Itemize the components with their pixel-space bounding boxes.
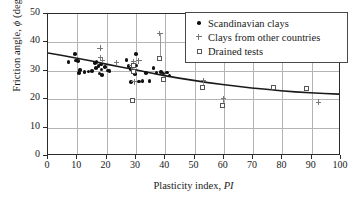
- data-point-plus: [131, 79, 136, 84]
- data-point-filled-circle: [108, 69, 112, 73]
- data-point-filled-circle: [144, 71, 148, 75]
- x-tick-label: 80: [266, 159, 296, 170]
- data-point-open-square: [200, 85, 205, 90]
- data-point-plus: [201, 78, 206, 83]
- y-tick-label: 40: [12, 34, 40, 45]
- data-point-filled-circle: [100, 73, 104, 77]
- data-point-filled-circle: [83, 70, 87, 74]
- data-point-filled-circle: [125, 58, 129, 62]
- data-point-plus: [316, 99, 321, 104]
- legend-marker-open-square-icon: [192, 44, 206, 58]
- data-point-filled-circle: [95, 60, 99, 64]
- x-tick-label: 50: [179, 159, 209, 170]
- data-point-filled-circle: [90, 69, 94, 73]
- friction-angle-vs-plasticity-index-chart: Friction angle, ϕ (deg) Plasticity index…: [0, 0, 359, 201]
- data-point-open-square: [131, 63, 136, 68]
- y-tick-label: 0: [12, 148, 40, 159]
- legend-entry: Drained tests: [192, 44, 342, 58]
- legend-label: Clays from other countries: [206, 32, 320, 43]
- data-point-plus: [136, 58, 141, 63]
- data-point-filled-circle: [168, 74, 172, 78]
- data-point-filled-circle: [73, 52, 77, 56]
- data-point-filled-circle: [141, 79, 145, 83]
- data-point-filled-circle: [76, 59, 80, 63]
- legend-entry: Scandinavian clays: [192, 16, 342, 30]
- data-point-open-square: [161, 77, 166, 82]
- y-tick-label: 10: [12, 120, 40, 131]
- data-point-plus: [97, 45, 102, 50]
- data-point-filled-circle: [155, 71, 159, 75]
- y-tick: [43, 98, 47, 99]
- legend-label: Drained tests: [206, 46, 263, 57]
- legend: Scandinavian claysClays from other count…: [185, 12, 348, 63]
- y-tick-label: 30: [12, 63, 40, 74]
- y-tick: [43, 155, 47, 156]
- data-point-open-square: [220, 103, 225, 108]
- x-tick-label: 40: [149, 159, 179, 170]
- legend-marker-filled-circle-icon: [192, 16, 206, 30]
- data-point-open-square: [130, 98, 135, 103]
- x-tick-label: 60: [208, 159, 238, 170]
- data-point-open-square: [157, 56, 162, 61]
- data-point-open-square: [271, 85, 276, 90]
- data-point-plus: [114, 60, 119, 65]
- data-point-filled-circle: [148, 79, 152, 83]
- data-point-filled-circle: [134, 52, 138, 56]
- x-tick-label: 70: [237, 159, 267, 170]
- x-tick-label: 30: [120, 159, 150, 170]
- y-tick: [43, 127, 47, 128]
- x-tick-label: 100: [325, 159, 355, 170]
- legend-entry: Clays from other countries: [192, 30, 342, 44]
- y-tick: [43, 41, 47, 42]
- y-tick: [43, 13, 47, 14]
- x-tick-label: 90: [296, 159, 326, 170]
- data-point-open-square: [131, 69, 136, 74]
- x-axis-label-symbol: PI: [224, 180, 234, 191]
- data-point-filled-circle: [99, 63, 103, 67]
- data-point-filled-circle: [78, 68, 82, 72]
- legend-label: Scandinavian clays: [206, 18, 289, 29]
- y-tick-label: 20: [12, 91, 40, 102]
- data-point-plus: [100, 57, 105, 62]
- x-tick-label: 0: [32, 159, 62, 170]
- data-point-filled-circle: [67, 60, 71, 64]
- x-tick-label: 20: [91, 159, 121, 170]
- x-axis-label-text: Plasticity index,: [153, 180, 221, 191]
- data-point-plus: [221, 96, 226, 101]
- x-tick-label: 10: [61, 159, 91, 170]
- error-bar: [160, 33, 161, 59]
- y-tick-label: 50: [12, 6, 40, 17]
- x-axis-label: Plasticity index, PI: [47, 180, 340, 191]
- data-point-plus: [157, 31, 162, 36]
- y-tick: [43, 70, 47, 71]
- y-axis-label-symbol: ϕ: [11, 21, 22, 27]
- data-point-filled-circle: [152, 66, 156, 70]
- data-point-open-square: [304, 86, 309, 91]
- legend-marker-plus-icon: [192, 30, 206, 44]
